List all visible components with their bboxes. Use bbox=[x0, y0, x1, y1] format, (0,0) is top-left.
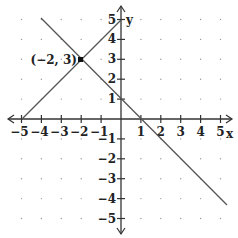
intersection-point-marker bbox=[78, 57, 83, 62]
grid-dot bbox=[61, 19, 62, 20]
grid-dot bbox=[180, 79, 181, 80]
grid-dot bbox=[180, 19, 181, 20]
coordinate-plane: −5−4−3−2−11234554321−1−2−3−4−5 (−2, 3) x… bbox=[0, 0, 238, 238]
grid-dot bbox=[220, 79, 221, 80]
grid-dot bbox=[140, 218, 141, 219]
grid-dot bbox=[21, 178, 22, 179]
grid-dot bbox=[140, 59, 141, 60]
y-tick-label: −4 bbox=[98, 192, 116, 206]
grid-dot bbox=[41, 198, 42, 199]
grid-dot bbox=[180, 39, 181, 40]
grid-dot bbox=[200, 39, 201, 40]
grid-dot bbox=[180, 178, 181, 179]
y-tick-label: 2 bbox=[108, 72, 116, 86]
grid-dot bbox=[200, 218, 201, 219]
x-tick-label: 5 bbox=[216, 125, 224, 139]
x-tick-label: −5 bbox=[10, 125, 28, 139]
grid-dot bbox=[21, 98, 22, 99]
grid-dot bbox=[140, 19, 141, 20]
grid-dot bbox=[61, 178, 62, 179]
grid-dot bbox=[160, 218, 161, 219]
y-tick-label: 3 bbox=[108, 52, 116, 66]
y-tick-label: 5 bbox=[108, 13, 116, 27]
grid-dot bbox=[61, 158, 62, 159]
grid-dot bbox=[160, 59, 161, 60]
grid-dot bbox=[81, 19, 82, 20]
grid-dot bbox=[21, 79, 22, 80]
grid-dot bbox=[200, 158, 201, 159]
x-tick-label: −2 bbox=[70, 125, 88, 139]
grid-dot bbox=[200, 59, 201, 60]
grid-dot bbox=[160, 198, 161, 199]
grid-dot bbox=[81, 218, 82, 219]
grid-dot bbox=[41, 79, 42, 80]
grid-dot bbox=[21, 158, 22, 159]
grid-dot bbox=[160, 79, 161, 80]
grid-dot bbox=[21, 198, 22, 199]
line-y-equals-neg-x-plus-1 bbox=[41, 18, 227, 205]
grid-dot bbox=[180, 98, 181, 99]
grid-dot bbox=[41, 178, 42, 179]
grid-dot bbox=[140, 158, 141, 159]
grid-dot bbox=[100, 19, 101, 20]
grid-dot bbox=[140, 39, 141, 40]
x-tick-label: 3 bbox=[177, 125, 185, 139]
grid-dot bbox=[160, 178, 161, 179]
grid-dot bbox=[81, 98, 82, 99]
grid-dot bbox=[140, 79, 141, 80]
grid-dot bbox=[220, 178, 221, 179]
grid-dot bbox=[180, 218, 181, 219]
grid-dot bbox=[81, 178, 82, 179]
x-tick-label: −3 bbox=[50, 125, 68, 139]
grid-dot bbox=[160, 98, 161, 99]
grid-dot bbox=[21, 39, 22, 40]
grid-dot bbox=[220, 39, 221, 40]
y-tick-label: −3 bbox=[98, 172, 116, 186]
grid-dot bbox=[160, 39, 161, 40]
y-tick-label: −2 bbox=[98, 152, 116, 166]
grid-dot bbox=[41, 218, 42, 219]
x-tick-label: 2 bbox=[157, 125, 165, 139]
grid-dot bbox=[61, 98, 62, 99]
grid-dot bbox=[140, 98, 141, 99]
grid-dot bbox=[21, 218, 22, 219]
y-tick-label: 1 bbox=[108, 92, 116, 106]
grid-dot bbox=[61, 218, 62, 219]
grid-dot bbox=[81, 79, 82, 80]
grid-dot bbox=[200, 79, 201, 80]
grid-dot bbox=[200, 19, 201, 20]
grid-dot bbox=[220, 19, 221, 20]
y-tick-label: −1 bbox=[98, 132, 116, 146]
grid-dot bbox=[140, 178, 141, 179]
grid-dot bbox=[41, 39, 42, 40]
grid-dot bbox=[220, 218, 221, 219]
y-tick-label: 4 bbox=[108, 32, 116, 46]
grid-dot bbox=[61, 198, 62, 199]
grid-dot bbox=[160, 19, 161, 20]
x-tick-label: 4 bbox=[196, 125, 204, 139]
grid-dot bbox=[220, 158, 221, 159]
grid-dot bbox=[220, 98, 221, 99]
grid-dot bbox=[100, 59, 101, 60]
grid-dot bbox=[180, 59, 181, 60]
intersection-point-label: (−2, 3) bbox=[31, 53, 77, 67]
grid-dot bbox=[41, 158, 42, 159]
grid-dot bbox=[140, 198, 141, 199]
grid-dot bbox=[100, 98, 101, 99]
line-y-equals-x-plus-5 bbox=[22, 20, 121, 119]
grid-dot bbox=[81, 158, 82, 159]
grid-dot bbox=[81, 198, 82, 199]
grid-dot bbox=[81, 39, 82, 40]
x-axis-label: x bbox=[226, 127, 234, 141]
grid-dot bbox=[220, 59, 221, 60]
grid-dot bbox=[180, 198, 181, 199]
x-tick-label: −4 bbox=[30, 125, 48, 139]
grid-dot bbox=[21, 19, 22, 20]
grid-dot bbox=[200, 98, 201, 99]
grid-dot bbox=[200, 198, 201, 199]
y-tick-label: −5 bbox=[98, 212, 116, 226]
grid-dot bbox=[160, 158, 161, 159]
y-axis-label: y bbox=[125, 13, 134, 27]
x-tick-label: 1 bbox=[137, 125, 145, 139]
grid-dot bbox=[21, 59, 22, 60]
